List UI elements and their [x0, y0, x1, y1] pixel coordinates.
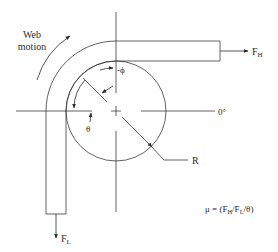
zero-degree-label: 0° — [218, 107, 227, 117]
phi-label: -ϕ — [117, 65, 125, 75]
force-low-subscript: L — [67, 238, 71, 246]
force-high-subscript: H — [258, 51, 263, 59]
web-motion-label-line1: Web — [23, 29, 41, 40]
capstan-friction-diagram: Web motion FH FL -ϕ θ 0° R μ = (FH/FL/θ) — [0, 0, 278, 252]
formula-prefix: μ = (F — [205, 204, 227, 214]
radius-line-lower — [122, 117, 152, 147]
theta-label: θ — [86, 124, 90, 134]
web-motion-label-line2: motion — [18, 41, 46, 52]
phi-arc — [100, 68, 113, 70]
force-high-label: FH — [252, 46, 263, 59]
radius-label: R — [192, 155, 199, 166]
formula-mid: /F — [232, 204, 240, 214]
radius-indicator — [83, 78, 188, 160]
theta-arc — [74, 80, 85, 108]
force-low-label: FL — [61, 233, 71, 246]
phi-inner-arrow — [102, 86, 113, 93]
radius-line-upper — [83, 78, 107, 102]
friction-formula: μ = (FH/FL/θ) — [205, 204, 253, 215]
formula-suffix: /θ) — [244, 204, 254, 214]
radius-leader — [150, 145, 188, 160]
theta-pointer — [90, 113, 91, 122]
